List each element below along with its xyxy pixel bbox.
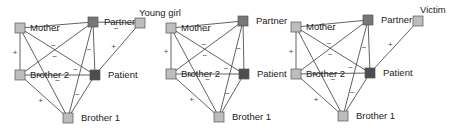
node-label-partner: Partner <box>256 15 287 26</box>
node-patient <box>239 69 249 79</box>
positive-sign: + <box>388 40 393 49</box>
negative-sign: − <box>224 64 229 73</box>
negative-sign: − <box>202 40 207 49</box>
negative-sign: − <box>75 90 80 99</box>
negative-sign: − <box>362 43 367 52</box>
node-brother-2 <box>291 69 301 79</box>
network-panel-young-girl: −−+−+−−−−+−+MotherPartnerYoung girlBroth… <box>13 7 181 123</box>
node-brother-2 <box>166 69 176 79</box>
positive-sign: + <box>38 96 43 105</box>
node-label-patient: Patient <box>257 68 287 79</box>
edge-brother-2-brother-1 <box>20 75 68 118</box>
negative-sign: − <box>328 50 333 59</box>
node-label-young-girl: Young girl <box>139 7 181 18</box>
node-partner <box>88 17 98 27</box>
node-brother-1 <box>214 112 224 122</box>
node-label-victim: Victim <box>420 4 446 15</box>
node-label-patient: Patient <box>383 67 413 78</box>
negative-sign: − <box>348 63 353 72</box>
node-label-patient: Patient <box>108 69 138 80</box>
node-label-mother: Mother <box>306 21 336 32</box>
signed-family-network-diagrams: −−+−+−−−−+−+MotherPartnerYoung girlBroth… <box>0 0 452 132</box>
positive-sign: + <box>13 48 18 57</box>
positive-sign: + <box>314 95 319 104</box>
node-label-mother: Mother <box>30 22 60 33</box>
node-brother-1 <box>338 111 348 121</box>
negative-sign: − <box>202 51 207 60</box>
node-mother <box>291 22 301 32</box>
positive-sign: + <box>289 47 294 56</box>
node-label-brother-2: Brother 2 <box>306 68 345 79</box>
positive-sign: + <box>164 47 169 56</box>
edge-partner-brother-1 <box>68 22 93 118</box>
node-label-partner: Partner <box>381 14 412 25</box>
edge-mother-patient <box>20 28 95 75</box>
node-mother <box>166 23 176 33</box>
node-brother-1 <box>63 113 73 123</box>
node-label-brother-2: Brother 2 <box>30 69 69 80</box>
edge-partner-patient <box>368 20 370 73</box>
node-label-brother-1: Brother 1 <box>81 112 120 123</box>
negative-sign: − <box>225 89 230 98</box>
node-patient <box>90 70 100 80</box>
node-label-brother-1: Brother 1 <box>232 111 271 122</box>
node-brother-2 <box>15 70 25 80</box>
node-mother <box>15 23 25 33</box>
edge-brother-2-brother-1 <box>171 74 219 117</box>
node-victim <box>413 16 423 26</box>
node-label-mother: Mother <box>181 22 211 33</box>
node-young-girl <box>135 18 145 28</box>
diagram-canvas: −−+−+−−−−+−+MotherPartnerYoung girlBroth… <box>0 0 452 132</box>
negative-sign: − <box>51 41 56 50</box>
negative-sign: − <box>350 88 355 97</box>
node-patient <box>365 68 375 78</box>
edge-brother-2-brother-1 <box>296 74 343 116</box>
negative-sign: − <box>87 45 92 54</box>
positive-sign: + <box>111 42 116 51</box>
node-label-partner: Partner <box>104 16 135 27</box>
positive-sign: + <box>189 95 194 104</box>
network-panel-family-only: −+−+−−−−+−MotherPartnerBrother 2PatientB… <box>164 15 287 122</box>
network-panel-victim: −+−+−−−−+−+MotherPartnerVictimBrother 2P… <box>289 4 446 121</box>
node-partner <box>238 16 248 26</box>
edge-partner-patient <box>243 21 244 74</box>
node-partner <box>363 15 373 25</box>
node-label-brother-1: Brother 1 <box>356 110 395 121</box>
negative-sign: − <box>327 39 332 48</box>
edge-partner-brother-1 <box>343 20 368 116</box>
edge-victim-patient <box>370 21 418 73</box>
edge-partner-patient <box>93 22 95 75</box>
node-label-brother-2: Brother 2 <box>181 68 220 79</box>
negative-sign: − <box>73 65 78 74</box>
negative-sign: − <box>52 52 57 61</box>
